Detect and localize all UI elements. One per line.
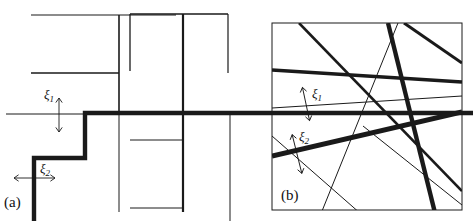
figure-canvas: ξ1ξ2(a)ξ1ξ2(b) <box>0 0 473 221</box>
figure-background <box>0 0 473 221</box>
panel-a-label: (a) <box>4 194 21 211</box>
figure-root: ξ1ξ2(a)ξ1ξ2(b) <box>0 0 473 221</box>
panel-b-label: (b) <box>281 187 299 204</box>
